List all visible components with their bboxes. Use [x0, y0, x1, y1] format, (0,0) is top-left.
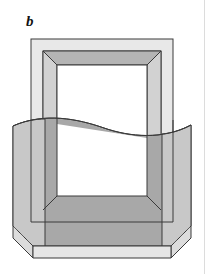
figure-illustration	[0, 0, 209, 274]
figure-panel: b	[0, 0, 209, 274]
body-left-side	[13, 119, 45, 246]
panel-label: b	[26, 14, 34, 29]
body-right-side	[162, 125, 191, 246]
page-edge-rule	[204, 0, 205, 274]
bottom-face-strip	[33, 246, 171, 258]
top-bevel-dark	[43, 51, 161, 65]
